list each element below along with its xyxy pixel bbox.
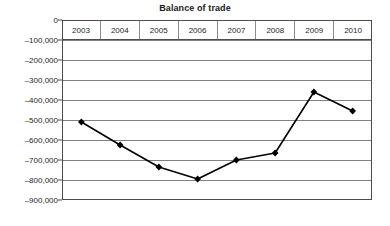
series-line [81, 92, 352, 179]
series-layer [62, 20, 372, 200]
y-axis-tick-label: –300,000 [0, 76, 58, 85]
y-axis-tick-mark [58, 80, 62, 81]
y-axis-tick-mark [58, 100, 62, 101]
data-point-2010 [349, 108, 356, 115]
y-axis-tick-label: –100,000 [0, 36, 58, 45]
y-axis-tick-mark [58, 120, 62, 121]
data-point-2004 [117, 142, 124, 149]
y-axis-tick-mark [58, 20, 62, 21]
y-axis-tick-mark [58, 160, 62, 161]
y-axis-tick-mark [58, 200, 62, 201]
chart-title: Balance of trade [0, 3, 390, 13]
y-axis-tick-mark [58, 60, 62, 61]
y-axis: 0–100,000–200,000–300,000–400,000–500,00… [0, 20, 58, 200]
data-point-2006 [194, 176, 201, 183]
y-axis-tick-mark [58, 180, 62, 181]
y-axis-tick-label: –700,000 [0, 156, 58, 165]
y-axis-tick-label: –800,000 [0, 176, 58, 185]
y-axis-tick-label: –600,000 [0, 136, 58, 145]
y-axis-tick-label: –500,000 [0, 116, 58, 125]
y-axis-tick-mark [58, 140, 62, 141]
y-axis-tick-mark [58, 40, 62, 41]
y-axis-tick-label: –400,000 [0, 96, 58, 105]
y-axis-tick-label: –900,000 [0, 196, 58, 205]
chart-container: Balance of trade 0–100,000–200,000–300,0… [0, 0, 390, 226]
data-point-2003 [78, 119, 85, 126]
y-axis-tick-label: 0 [0, 16, 58, 25]
y-axis-tick-label: –200,000 [0, 56, 58, 65]
data-point-2007 [233, 157, 240, 164]
data-point-2005 [155, 164, 162, 171]
